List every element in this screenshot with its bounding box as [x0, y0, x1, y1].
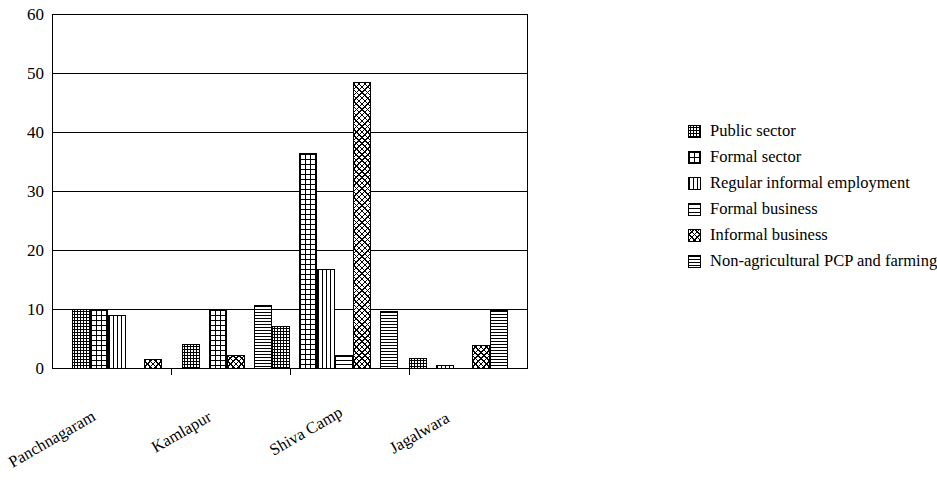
x-separator-3: [409, 368, 410, 375]
legend-swatch-formal-business-icon: [688, 203, 701, 216]
x-separator-1: [171, 368, 172, 375]
bar-kamlapur-non-agricultural-pcp-and-farming: [254, 305, 272, 369]
legend-item-formal-sector: Formal sector: [688, 144, 937, 170]
legend-swatch-non-agricultural-pcp-and-farming-icon: [688, 255, 701, 268]
legend-item-formal-business: Formal business: [688, 196, 937, 222]
legend-item-regular-informal-employment: Regular informal employment: [688, 170, 937, 196]
bar-shiva-camp-informal-business: [353, 82, 371, 369]
ytick-label-20: 20: [10, 242, 44, 259]
legend-label-public-sector: Public sector: [710, 121, 796, 141]
legend-swatch-public-sector-icon: [688, 125, 701, 138]
legend-swatch-informal-business-icon: [688, 229, 701, 242]
bar-panchnagaram-informal-business: [144, 359, 162, 369]
bar-kamlapur-formal-sector: [209, 309, 227, 369]
y-axis: [52, 14, 53, 369]
legend: Public sector Formal sector Regular info…: [688, 118, 937, 274]
x-separator-2: [290, 368, 291, 375]
legend-label-informal-business: Informal business: [710, 225, 828, 245]
gridline-60: [52, 14, 528, 15]
legend-item-non-agricultural-pcp-and-farming: Non-agricultural PCP and farming: [688, 248, 937, 274]
x-label-shiva-camp: Shiva Camp: [266, 402, 346, 460]
bar-jagalwara-regular-informal-employment: [436, 365, 454, 369]
plot-right-border: [527, 14, 528, 369]
legend-label-regular-informal-employment: Regular informal employment: [710, 173, 910, 193]
legend-label-formal-sector: Formal sector: [710, 147, 801, 167]
legend-label-non-agricultural-pcp-and-farming: Non-agricultural PCP and farming: [710, 251, 937, 271]
ytick-label-50: 50: [10, 65, 44, 82]
bar-jagalwara-public-sector: [409, 358, 427, 369]
bar-panchnagaram-regular-informal-employment: [108, 315, 126, 369]
bar-shiva-camp-formal-business: [335, 355, 353, 369]
legend-swatch-regular-informal-employment-icon: [688, 177, 701, 190]
legend-item-informal-business: Informal business: [688, 222, 937, 248]
bar-shiva-camp-public-sector: [272, 326, 290, 369]
ytick-label-0: 0: [10, 360, 44, 377]
ytick-label-10: 10: [10, 301, 44, 318]
bar-kamlapur-public-sector: [182, 344, 200, 369]
bar-jagalwara-non-agricultural-pcp-and-farming: [490, 310, 508, 369]
bar-shiva-camp-formal-sector: [299, 153, 317, 369]
bar-panchnagaram-public-sector: [72, 309, 90, 369]
x-label-jagalwara: Jagalwara: [386, 408, 453, 458]
gridline-30: [52, 191, 528, 192]
bar-shiva-camp-non-agricultural-pcp-and-farming: [380, 311, 398, 369]
bar-shiva-camp-regular-informal-employment: [317, 269, 335, 369]
gridline-40: [52, 132, 528, 133]
x-label-panchnagaram: Panchnagaram: [5, 406, 99, 472]
ytick-label-60: 60: [10, 6, 44, 23]
legend-item-public-sector: Public sector: [688, 118, 937, 144]
gridline-10: [52, 309, 528, 310]
ytick-label-40: 40: [10, 124, 44, 141]
x-label-kamlapur: Kamlapur: [148, 407, 215, 457]
bar-jagalwara-informal-business: [472, 345, 490, 369]
legend-swatch-formal-sector-icon: [688, 151, 701, 164]
gridline-50: [52, 73, 528, 74]
legend-label-formal-business: Formal business: [710, 199, 818, 219]
ytick-label-30: 30: [10, 183, 44, 200]
bar-kamlapur-informal-business: [227, 355, 245, 369]
gridline-20: [52, 250, 528, 251]
bar-panchnagaram-formal-sector: [90, 309, 108, 369]
